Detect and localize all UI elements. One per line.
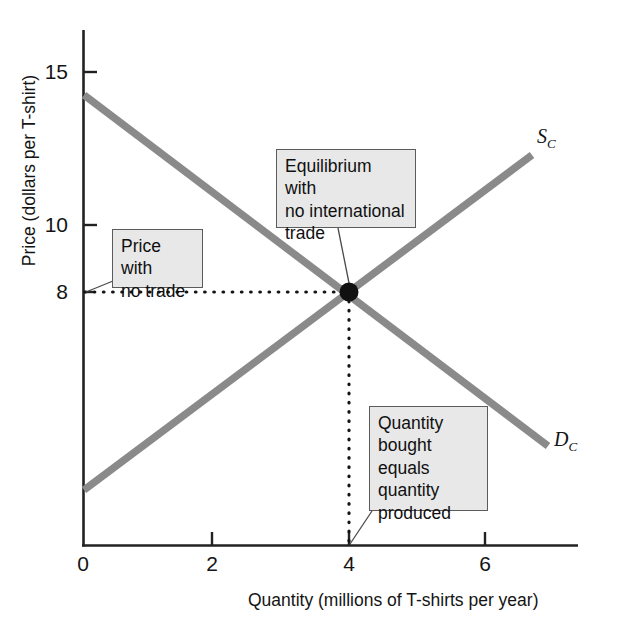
demand-curve-label-sub: C	[568, 439, 577, 454]
callout-equilibrium-line-3: trade	[285, 222, 407, 244]
chart-canvas	[0, 0, 621, 627]
x-axis-title: Quantity (millions of T-shirts per year)	[248, 590, 538, 611]
leader-line-quantity	[350, 511, 372, 544]
equilibrium-point-marker	[340, 283, 359, 302]
x-tick-label-2: 2	[193, 552, 231, 576]
x-tick-label-0: 0	[64, 552, 102, 576]
y-axis-title: Price (dollars per T-shirt)	[19, 56, 40, 286]
callout-equilibrium-line-2: no international	[285, 200, 407, 222]
callout-price-line-2: no trade	[121, 280, 194, 302]
supply-demand-figure: 15 10 8 0 2 4 6 Price (dollars per T-shi…	[0, 0, 621, 627]
callout-quantity-line-1: Quantity	[378, 412, 479, 434]
supply-curve-label-letter: S	[537, 125, 547, 147]
x-tick-label-4: 4	[330, 552, 368, 576]
callout-quantity-bought-equals-produced: Quantity bought equals quantity produced	[369, 406, 488, 511]
supply-curve-label: SC	[537, 125, 556, 152]
supply-curve-label-sub: C	[547, 136, 556, 151]
callout-equilibrium-line-1: Equilibrium with	[285, 155, 407, 200]
callout-equilibrium: Equilibrium with no international trade	[276, 149, 416, 228]
callout-quantity-line-4: produced	[378, 502, 479, 524]
x-tick-label-6: 6	[466, 552, 504, 576]
callout-price-line-1: Price with	[121, 235, 194, 280]
callout-price-with-no-trade: Price with no trade	[112, 229, 203, 288]
callout-quantity-line-3: quantity	[378, 479, 479, 501]
demand-curve-label: DC	[554, 428, 577, 455]
callout-quantity-line-2: bought equals	[378, 434, 479, 479]
demand-curve-label-letter: D	[554, 428, 568, 450]
leader-line-price	[86, 281, 113, 292]
